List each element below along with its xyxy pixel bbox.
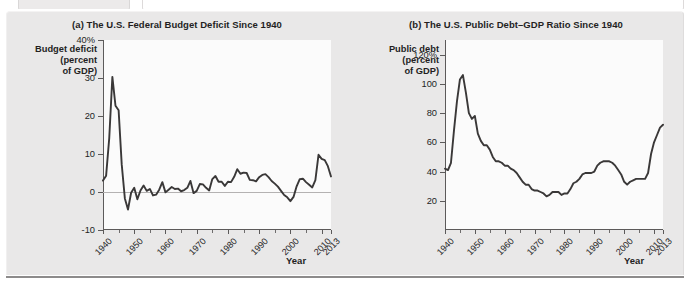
chart-b-x-tick-minor (460, 230, 461, 233)
chart-b-y-tick-label: 100 (421, 79, 437, 89)
chart-b-x-tick-minor (550, 230, 551, 233)
chart-b-x-tick (564, 230, 565, 234)
chart-a-x-tick-label: 1960 (155, 236, 176, 257)
chart-b-x-tick-minor (639, 230, 640, 233)
figure-number-tab (18, 0, 130, 9)
chart-a-x-tick-label: 1980 (218, 236, 239, 257)
chart-a-y-tick-label: 30 (85, 73, 95, 83)
chart-a-y-tick-label: 10 (85, 149, 95, 159)
figure-panel: (a) The U.S. Federal Budget Deficit Sinc… (6, 11, 684, 275)
chart-a-y-tick-label: -10 (82, 225, 95, 235)
chart-a-x-tick (322, 230, 323, 234)
chart-b-y-tick-label: 80 (427, 108, 437, 118)
chart-b-x-tick-label: 1980 (554, 236, 575, 257)
figure-header: FIGURE 13-12 U.S. Federal Deficits and D… (0, 0, 690, 9)
chart-b-x-tick-label: 1970 (524, 236, 545, 257)
chart-b-x-tick (475, 230, 476, 234)
chart-a-x-tick-minor (244, 230, 245, 233)
chart-a-series (103, 40, 331, 230)
chart-a-x-tick (259, 230, 260, 234)
chart-a-x-tick (134, 230, 135, 234)
chart-a-x-tick-minor (306, 230, 307, 233)
chart-a-x-tick-minor (150, 230, 151, 233)
chart-a-y-tick-label: 20 (85, 111, 95, 121)
chart-b-series (445, 40, 663, 230)
chart-b-x-tick-label: 1950 (465, 236, 486, 257)
chart-b-x-tick-label: 1940 (435, 236, 456, 257)
figure-title-box (142, 0, 684, 9)
chart-b-plot-area: 20406080100120%1940195019601970198019902… (445, 40, 663, 230)
chart-a-x-tick-minor (119, 230, 120, 233)
chart-b-y-tick-label: 60 (427, 137, 437, 147)
chart-panel-a: (a) The U.S. Federal Budget Deficit Sinc… (7, 12, 347, 276)
chart-b-x-tick-minor (520, 230, 521, 233)
chart-b-x-tick-minor (490, 230, 491, 233)
chart-b-y-tick-label: 40 (427, 167, 437, 177)
chart-a-x-tick-minor (212, 230, 213, 233)
chart-b-x-tick (594, 230, 595, 234)
figure-container: FIGURE 13-12 U.S. Federal Deficits and D… (0, 0, 690, 287)
chart-a-subtitle: (a) The U.S. Federal Budget Deficit Sinc… (7, 19, 347, 30)
chart-a-x-tick (165, 230, 166, 234)
chart-a-x-tick (228, 230, 229, 234)
chart-b-x-tick (624, 230, 625, 234)
chart-a-x-tick-label: 1950 (124, 236, 145, 257)
figure-bottom-rule (6, 276, 684, 278)
chart-a-plot-area: -10010203040%194019501960197019801990200… (103, 40, 331, 230)
chart-panel-b: (b) The U.S. Public Debt–GDP Ratio Since… (347, 12, 685, 276)
chart-b-x-tick (663, 230, 664, 234)
chart-b-x-tick (654, 230, 655, 234)
chart-a-x-tick-minor (181, 230, 182, 233)
chart-a-x-tick (290, 230, 291, 234)
chart-b-x-tick-label: 1990 (584, 236, 605, 257)
chart-b-x-tick (445, 230, 446, 234)
chart-a-x-tick-label: 1970 (187, 236, 208, 257)
chart-a-x-tick (197, 230, 198, 234)
chart-b-line (445, 75, 663, 196)
chart-a-y-tick-label: 0 (90, 187, 95, 197)
chart-a-line (103, 77, 331, 210)
chart-b-y-tick-label: 20 (427, 196, 437, 206)
chart-b-x-tick (535, 230, 536, 234)
chart-b-x-axis-title: Year (624, 255, 644, 266)
chart-a-x-tick-label: 1940 (93, 236, 114, 257)
chart-a-x-tick (331, 230, 332, 234)
chart-a-x-tick-label: 1990 (249, 236, 270, 257)
chart-b-subtitle: (b) The U.S. Public Debt–GDP Ratio Since… (347, 19, 685, 30)
chart-a-x-tick-minor (275, 230, 276, 233)
chart-b-x-tick-minor (609, 230, 610, 233)
chart-a-x-axis-title: Year (286, 255, 306, 266)
chart-a-y-tick-label: 40% (76, 35, 95, 45)
chart-b-x-tick-minor (579, 230, 580, 233)
chart-a-x-tick (103, 230, 104, 234)
chart-b-x-tick-label: 1960 (495, 236, 516, 257)
chart-b-x-tick (505, 230, 506, 234)
chart-b-y-tick-label: 120% (413, 50, 437, 60)
